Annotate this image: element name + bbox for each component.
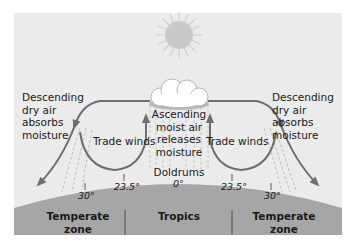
zone-temperate-right: Temperate zone xyxy=(244,210,324,235)
zone-line: zone xyxy=(38,223,118,236)
sun-icon xyxy=(156,12,202,58)
label-line: Descending xyxy=(272,91,334,104)
label-line: dry air xyxy=(22,104,84,117)
latitude-23-left: 23.5° xyxy=(114,181,140,192)
right-trade-winds-label: Trade winds xyxy=(206,135,268,148)
label-line: moist air xyxy=(146,121,212,134)
latitude-30-right: 30° xyxy=(264,190,281,201)
label-line: moisture xyxy=(272,129,334,142)
ascending-label: Ascending moist air releases moisture xyxy=(146,108,212,158)
zone-line: zone xyxy=(244,223,324,236)
zone-line: Temperate xyxy=(244,210,324,223)
label-line: Ascending xyxy=(146,108,212,121)
zone-temperate-left: Temperate zone xyxy=(38,210,118,235)
zone-line: Temperate xyxy=(38,210,118,223)
latitude-equator: 0° xyxy=(173,178,184,189)
label-line: moisture xyxy=(22,129,84,142)
left-descending-label: Descending dry air absorbs moisture xyxy=(22,91,84,141)
latitude-23-right: 23.5° xyxy=(221,181,247,192)
zone-tropics: Tropics xyxy=(139,210,219,223)
right-descending-label: Descending dry air absorbs moisture xyxy=(272,91,334,141)
label-line: Descending xyxy=(22,91,84,104)
latitude-30-left: 30° xyxy=(78,190,95,201)
label-line: moisture xyxy=(146,146,212,159)
label-line: dry air xyxy=(272,104,334,117)
label-line: absorbs xyxy=(272,116,334,129)
doldrums-label: Doldrums xyxy=(146,166,212,179)
label-line: absorbs xyxy=(22,116,84,129)
cloud-icon xyxy=(149,79,209,110)
label-line: releases xyxy=(146,133,212,146)
